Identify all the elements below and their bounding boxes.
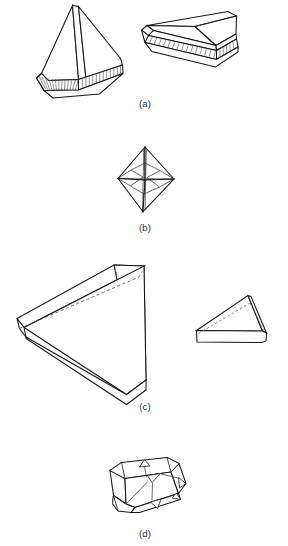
figure-plate: (a) (b) [0, 0, 288, 546]
cube-internal-edge-lower [152, 483, 153, 501]
panel-c-caption: (c) [139, 401, 151, 412]
panel-b-caption: (b) [139, 222, 151, 233]
crystal-habit-figure: (a) (b) [0, 0, 288, 546]
panel-d-caption: (d) [139, 528, 151, 539]
small-wedge-front-strip [197, 331, 267, 343]
panel-a-caption: (a) [139, 98, 151, 109]
